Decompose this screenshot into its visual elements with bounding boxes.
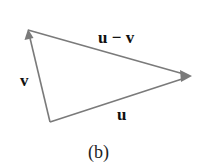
- vector-v-line: [30, 38, 50, 122]
- label-u-minus-v: u − v: [98, 29, 134, 46]
- label-u: u: [117, 106, 126, 123]
- vector-triangle: [0, 0, 198, 163]
- label-v: v: [20, 72, 29, 89]
- vector-u-line: [50, 79, 182, 122]
- figure-caption: (b): [88, 143, 109, 161]
- vector-u-minus-v-arrowhead-icon: [180, 70, 192, 82]
